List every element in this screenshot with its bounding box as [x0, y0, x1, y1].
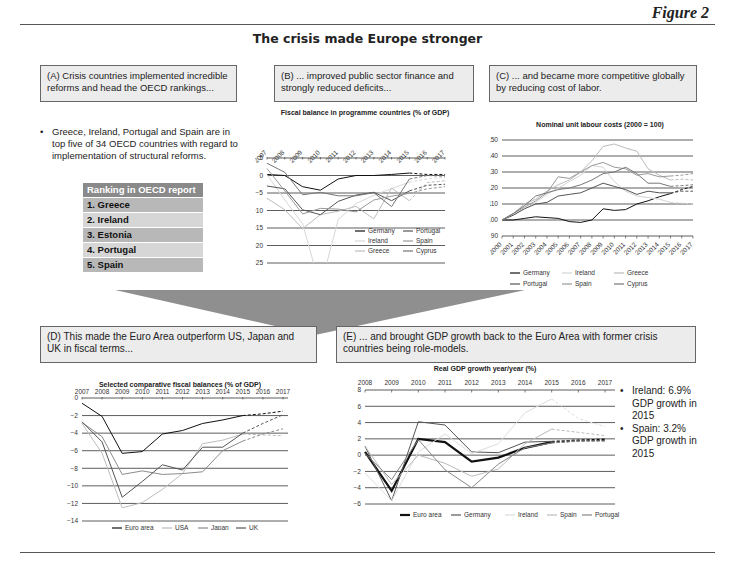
legend-label: Ireland	[575, 269, 595, 276]
y-tick-label: −10	[67, 482, 78, 489]
legend-label: Germany	[464, 511, 491, 519]
x-tick-label: 2017	[431, 148, 446, 163]
chart-comparative-fiscal-balances: Selected comparative fiscal balances (% …	[40, 380, 325, 530]
y-tick-label: 90	[491, 232, 499, 239]
bottom-divider	[20, 552, 715, 553]
legend-label: Euro area	[125, 524, 154, 530]
series-line	[82, 403, 243, 453]
y-tick-label: 6	[357, 403, 361, 410]
x-tick-label: 2016	[571, 379, 586, 386]
x-tick-label: 2013	[359, 148, 374, 163]
y-tick-label: −5	[256, 189, 264, 196]
x-tick-label: 2008	[270, 148, 285, 163]
x-tick-label: 2016	[413, 148, 428, 163]
series-forecast-line	[671, 179, 693, 180]
ranking-row: 1. Greece	[83, 198, 203, 212]
caption-c: (C) ... and became more competitive glob…	[489, 65, 697, 102]
chart-title: Real GDP growth year/year (%)	[434, 365, 537, 373]
y-tick-label: −10	[255, 207, 263, 214]
panel-e-bullet: Ireland: 6.9% GDP growth in 2015	[620, 385, 705, 423]
series-line	[82, 423, 243, 475]
page-title: The crisis made Europe stronger	[0, 31, 735, 46]
legend-label: Portugal	[523, 280, 548, 288]
x-tick-label: 2017	[679, 240, 694, 255]
caption-d: (D) This made the Euro Area outperform U…	[40, 326, 317, 363]
y-tick-label: 2	[357, 435, 361, 442]
y-tick-label: −6	[71, 447, 79, 454]
x-tick-label: 2015	[544, 379, 559, 386]
chart-title: Fiscal balance in programme countries (%…	[281, 109, 449, 117]
x-tick-label: 2012	[175, 388, 190, 395]
series-line	[82, 423, 243, 507]
legend-label: Japan	[211, 524, 229, 530]
series-line	[502, 167, 671, 220]
x-tick-label: 2012	[464, 379, 479, 386]
legend-label: Ireland	[368, 237, 388, 244]
y-tick-label: −2	[354, 468, 362, 475]
y-tick-label: −4	[71, 429, 79, 436]
legend-label: Cyprus	[416, 247, 437, 255]
panel-e-bullet: Spain: 3.2% GDP growth in 2015	[620, 423, 705, 461]
figure-label: Figure 2	[652, 4, 709, 22]
caption-b: (B) ... improved public sector finance a…	[274, 65, 474, 102]
y-tick-label: −25	[255, 259, 263, 266]
ranking-row: 3. Estonia	[83, 228, 203, 242]
legend-label: Greece	[627, 269, 649, 276]
series-forecast-line	[552, 429, 605, 436]
y-tick-label: 0	[74, 394, 78, 401]
series-forecast-line	[671, 174, 693, 176]
y-tick-label: 0	[357, 451, 361, 458]
legend-label: Euro area	[413, 511, 442, 518]
x-tick-label: 2009	[115, 388, 130, 395]
y-tick-label: −6	[354, 500, 362, 507]
x-tick-label: 2011	[324, 148, 339, 163]
chart-real-gdp-growth: Real GDP growth year/year (%)86420−2−4−6…	[345, 363, 625, 533]
panel-a-bullet: Greece, Ireland, Portugal and Spain are …	[40, 126, 240, 162]
x-tick-label: 2011	[155, 388, 169, 395]
x-tick-label: 2009	[288, 148, 303, 163]
legend-label: UK	[249, 524, 259, 530]
y-tick-label: 8	[357, 386, 361, 393]
x-tick-label: 2014	[215, 388, 230, 395]
series-line	[267, 188, 409, 229]
x-tick-label: 2014	[518, 379, 533, 386]
oecd-ranking-table: Ranking in OECD report 1. Greece 2. Irel…	[83, 183, 203, 273]
panel-a-bullets: Greece, Ireland, Portugal and Spain are …	[40, 126, 240, 162]
chart-title: Nominal unit labour costs (2000 = 100)	[536, 121, 664, 129]
series-forecast-line	[409, 173, 445, 174]
y-tick-label: 0	[259, 172, 263, 179]
series-line	[267, 163, 409, 206]
series-line	[365, 429, 552, 484]
y-tick-label: −4	[354, 484, 362, 491]
legend-label: Germany	[523, 269, 550, 277]
legend-label: Spain	[575, 280, 592, 288]
legend-label: USA	[175, 524, 189, 530]
y-tick-label: −12	[67, 500, 78, 507]
x-tick-label: 2010	[411, 379, 426, 386]
x-tick-label: 2009	[384, 379, 399, 386]
x-tick-label: 2012	[342, 148, 357, 163]
legend-label: Portugal	[416, 227, 441, 235]
series-forecast-line	[243, 411, 283, 415]
y-tick-label: 130	[490, 168, 498, 175]
x-tick-label: 2008	[358, 379, 373, 386]
legend-label: Portugal	[595, 511, 620, 519]
legend-label: Spain	[416, 237, 433, 245]
x-tick-label: 2017	[276, 388, 291, 395]
series-forecast-line	[671, 185, 693, 187]
legend-label: Spain	[560, 511, 577, 519]
legend-label: Germany	[368, 227, 395, 235]
legend-label: Ireland	[518, 511, 538, 518]
chart-fiscal-balance-programme: Fiscal balance in programme countries (%…	[255, 105, 485, 290]
x-tick-label: 2013	[491, 379, 506, 386]
legend-label: Cyprus	[627, 280, 648, 288]
caption-e: (E) ... and brought GDP growth back to t…	[336, 326, 696, 363]
ranking-row: 5. Spain	[83, 258, 203, 272]
top-divider	[20, 24, 715, 25]
series-forecast-line	[409, 176, 445, 180]
y-tick-label: −14	[67, 517, 78, 524]
x-tick-label: 2017	[598, 379, 613, 386]
series-forecast-line	[671, 191, 693, 193]
caption-a: (A) Crisis countries implemented incredi…	[40, 65, 237, 102]
x-tick-label: 2014	[377, 148, 392, 163]
